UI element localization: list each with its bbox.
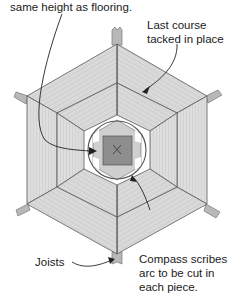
joist-top xyxy=(112,27,122,45)
joist-upper-right xyxy=(206,90,222,103)
label-joists: Joists xyxy=(35,255,64,269)
center-area xyxy=(87,120,147,180)
label-compass-scribes: Compass scribes arc to be cut in each pi… xyxy=(139,252,227,294)
label-same-height: same height as flooring. xyxy=(10,0,132,14)
joist-lower-right xyxy=(204,204,220,218)
label-last-course: Last course tacked in place xyxy=(147,18,224,46)
joist-upper-left xyxy=(14,92,28,104)
joist-lower-left xyxy=(16,204,30,216)
